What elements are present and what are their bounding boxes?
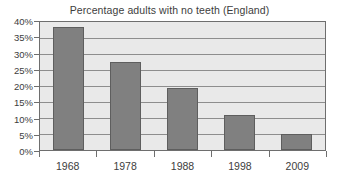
bar[interactable] — [167, 88, 199, 150]
y-axis-tick-label: 15% — [14, 97, 33, 108]
x-axis-tick-mark — [326, 151, 327, 157]
bar[interactable] — [224, 115, 256, 150]
x-axis-tick-label: 1988 — [171, 160, 194, 172]
x-axis-tick-mark — [39, 151, 40, 157]
x-axis-tick-label: 1998 — [228, 160, 251, 172]
bar-slot — [154, 22, 211, 150]
y-axis-tick-label: 40% — [14, 16, 33, 27]
x-axis-tick-mark — [211, 151, 212, 157]
x-axis-tick-mark — [154, 151, 155, 157]
x-axis-tick-label: 1968 — [56, 160, 79, 172]
plot-area — [39, 21, 326, 151]
bar[interactable] — [53, 27, 85, 150]
y-axis-tick-label: 30% — [14, 48, 33, 59]
y-axis-tick-label: 5% — [19, 129, 33, 140]
y-axis-tick-label: 35% — [14, 32, 33, 43]
y-axis-tick-label: 20% — [14, 81, 33, 92]
x-axis-tick-label: 1978 — [113, 160, 136, 172]
bar-slot — [40, 22, 97, 150]
chart-title: Percentage adults with no teeth (England… — [0, 4, 339, 16]
bar-slot — [268, 22, 325, 150]
x-axis-tick-mark — [96, 151, 97, 157]
bar-slot — [97, 22, 154, 150]
x-axis-tick-marks — [39, 151, 326, 157]
bar-slot — [211, 22, 268, 150]
y-axis-tick-labels: 0%5%10%15%20%25%30%35%40% — [0, 21, 33, 151]
x-axis-tick-labels: 19681978198819982009 — [39, 160, 326, 180]
x-axis-tick-label: 2009 — [286, 160, 309, 172]
bar[interactable] — [110, 62, 142, 150]
y-axis-tick-label: 0% — [19, 146, 33, 157]
bar[interactable] — [281, 134, 313, 150]
y-axis-tick-label: 10% — [14, 113, 33, 124]
x-axis-tick-mark — [269, 151, 270, 157]
bar-chart-figure: Percentage adults with no teeth (England… — [0, 0, 339, 193]
y-axis-tick-label: 25% — [14, 64, 33, 75]
